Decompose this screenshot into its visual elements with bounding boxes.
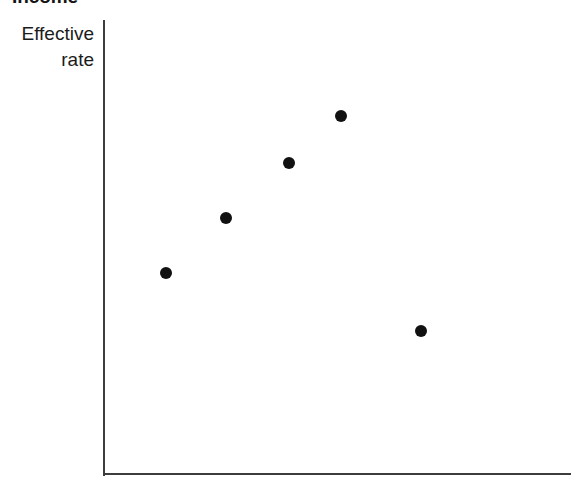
y-axis-label-line-1: Effective: [2, 21, 94, 47]
y-axis-label: Effective rate: [2, 21, 94, 73]
y-axis-label-line-2: rate: [2, 47, 94, 73]
plot-area: [105, 20, 571, 473]
chart-title: Income: [12, 0, 78, 6]
data-point: [415, 325, 427, 337]
data-point: [283, 157, 295, 169]
chart-figure: Income Effective rate: [0, 0, 586, 480]
data-point: [335, 110, 347, 122]
x-axis-line: [103, 473, 571, 475]
data-point: [160, 267, 172, 279]
data-point: [220, 212, 232, 224]
